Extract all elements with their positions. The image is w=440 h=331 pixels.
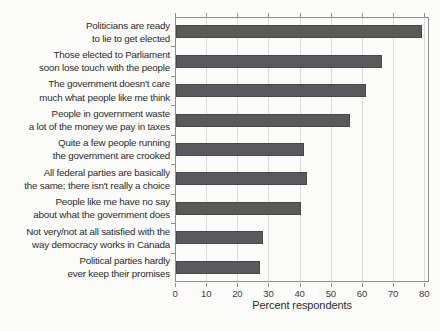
category-label-line: All federal parties are basically	[44, 166, 170, 179]
bottom-tick-80	[424, 283, 425, 287]
category-label-line: Those elected to Parliament	[53, 48, 170, 61]
left-tick-6	[171, 194, 175, 195]
category-label-line: Politicians are ready	[86, 19, 170, 32]
left-tick-4	[171, 135, 175, 136]
left-tick-5	[171, 164, 175, 165]
left-tick-8	[171, 253, 175, 254]
bar	[176, 143, 304, 156]
x-tick-label-20: 20	[225, 288, 249, 299]
category-label-line: a lot of the money we pay in taxes	[29, 120, 170, 133]
category-label: Those elected to Parliamentsoon lose tou…	[0, 46, 170, 75]
bottom-tick-0	[175, 283, 176, 287]
category-label-line: People like me have no say	[55, 195, 170, 208]
top-tick-20	[237, 13, 238, 17]
category-label-line: much what people like me think	[39, 91, 170, 104]
category-label: People like me have no sayabout what the…	[0, 194, 170, 223]
category-label-line: People in government waste	[52, 107, 170, 120]
category-label: Political parties hardlyever keep their …	[0, 253, 170, 282]
category-label-line: ever keep their promises	[68, 267, 170, 280]
top-tick-80	[424, 13, 425, 17]
category-label: The government doesn't caremuch what peo…	[0, 76, 170, 105]
bottom-tick-50	[331, 283, 332, 287]
category-label: Politicians are readyto lie to get elect…	[0, 17, 170, 46]
category-label: People in government wastea lot of the m…	[0, 105, 170, 134]
category-label-line: Quite a few people running	[58, 136, 170, 149]
left-tick-3	[171, 105, 175, 106]
bar	[176, 231, 263, 244]
category-label-line: The government doesn't care	[48, 77, 170, 90]
bar	[176, 261, 260, 274]
category-label-line: the same; there isn't really a choice	[24, 179, 170, 192]
bar	[176, 84, 366, 97]
x-tick-label-10: 10	[194, 288, 218, 299]
x-tick-label-60: 60	[350, 288, 374, 299]
category-label-line: soon lose touch with the people	[39, 61, 170, 74]
category-label: All federal parties are basicallythe sam…	[0, 164, 170, 193]
top-tick-70	[393, 13, 394, 17]
x-tick-label-0: 0	[163, 288, 187, 299]
x-tick-label-50: 50	[319, 288, 343, 299]
bottom-tick-70	[393, 283, 394, 287]
bottom-tick-40	[300, 283, 301, 287]
left-tick-2	[171, 76, 175, 77]
bottom-tick-60	[362, 283, 363, 287]
left-tick-7	[171, 223, 175, 224]
category-label-line: Political parties hardly	[80, 254, 171, 267]
top-tick-30	[268, 13, 269, 17]
category-label-line: to lie to get elected	[92, 32, 170, 45]
category-label-line: about what the government does	[33, 208, 170, 221]
bottom-tick-10	[206, 283, 207, 287]
left-tick-1	[171, 46, 175, 47]
x-tick-label-80: 80	[412, 288, 436, 299]
bar	[176, 202, 301, 215]
category-label: Not very/not at all satisfied with thewa…	[0, 223, 170, 252]
category-label-line: the government are crooked	[53, 149, 170, 162]
bar	[176, 172, 307, 185]
survey-bar-chart-figure: 01020304050607080Politicians are readyto…	[0, 0, 440, 331]
x-tick-label-30: 30	[256, 288, 280, 299]
top-tick-50	[331, 13, 332, 17]
bar	[176, 55, 382, 68]
top-tick-10	[206, 13, 207, 17]
x-tick-label-70: 70	[381, 288, 405, 299]
x-tick-label-40: 40	[288, 288, 312, 299]
bottom-tick-30	[268, 283, 269, 287]
category-label-line: Not very/not at all satisfied with the	[26, 225, 170, 238]
category-label-line: way democracy works in Canada	[32, 238, 170, 251]
gridline-70	[393, 18, 394, 281]
top-tick-40	[300, 13, 301, 17]
x-axis-title: Percent respondents	[175, 299, 429, 311]
bottom-tick-20	[237, 283, 238, 287]
bar	[176, 114, 350, 127]
bar	[176, 25, 422, 38]
category-label: Quite a few people runningthe government…	[0, 135, 170, 164]
gridline-80	[424, 18, 425, 281]
top-tick-60	[362, 13, 363, 17]
top-tick-0	[175, 13, 176, 17]
